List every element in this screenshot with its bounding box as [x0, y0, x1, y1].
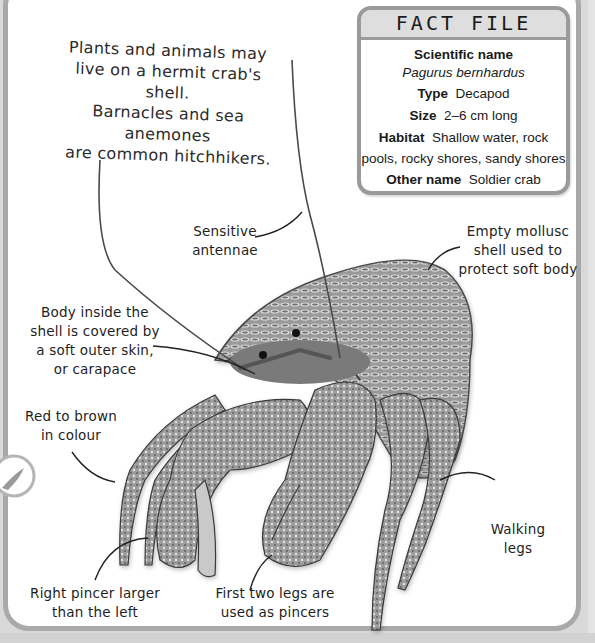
- scientific-name-label: Scientific name: [414, 47, 513, 62]
- label-line: or carapace: [20, 360, 170, 379]
- label-line: Body inside the: [20, 303, 170, 322]
- intro-caption: Plants and animals may live on a hermit …: [58, 40, 278, 166]
- label-line: First two legs are: [200, 584, 350, 603]
- fact-file-title: FACT FILE: [361, 10, 566, 40]
- scientific-name-value: Pagurus bernhardus: [361, 63, 566, 83]
- label-line: legs: [478, 539, 558, 558]
- size-value: 2–6 cm long: [444, 108, 518, 123]
- label-line: shell used to: [448, 241, 588, 260]
- habitat-value-line2: pools, rocky shores, sandy shores: [361, 148, 566, 169]
- label-line: Walking: [478, 520, 558, 539]
- label-pincers: First two legs are used as pincers: [200, 584, 350, 622]
- label-colour: Red to brown in colour: [16, 407, 126, 445]
- label-line: shell is covered by: [20, 322, 170, 341]
- other-name-value: Soldier crab: [469, 172, 541, 187]
- label-walking-legs: Walking legs: [478, 520, 558, 558]
- label-line: than the left: [20, 603, 170, 622]
- side-tab-shrimp-icon: [0, 456, 34, 496]
- label-line: antennae: [180, 241, 270, 260]
- size-label: Size: [409, 108, 436, 123]
- label-line: a soft outer skin,: [20, 341, 170, 360]
- habitat-label: Habitat: [379, 130, 425, 145]
- label-right-pincer: Right pincer larger than the left: [20, 584, 170, 622]
- label-line: Right pincer larger: [20, 584, 170, 603]
- label-shell: Empty mollusc shell used to protect soft…: [448, 222, 588, 279]
- leader-colour: [72, 452, 115, 482]
- label-antennae: Sensitive antennae: [180, 222, 270, 260]
- label-line: in colour: [16, 426, 126, 445]
- other-name-label: Other name: [386, 172, 461, 187]
- label-line: Empty mollusc: [448, 222, 588, 241]
- habitat-value-line1: Shallow water, rock: [432, 130, 548, 145]
- fact-file-box: FACT FILE Scientific name Pagurus bernha…: [357, 6, 570, 195]
- label-line: used as pincers: [200, 603, 350, 622]
- label-line: Sensitive: [180, 222, 270, 241]
- label-carapace: Body inside the shell is covered by a so…: [20, 303, 170, 379]
- label-line: protect soft body: [448, 260, 588, 279]
- type-value: Decapod: [455, 86, 509, 101]
- type-label: Type: [417, 86, 448, 101]
- label-line: Red to brown: [16, 407, 126, 426]
